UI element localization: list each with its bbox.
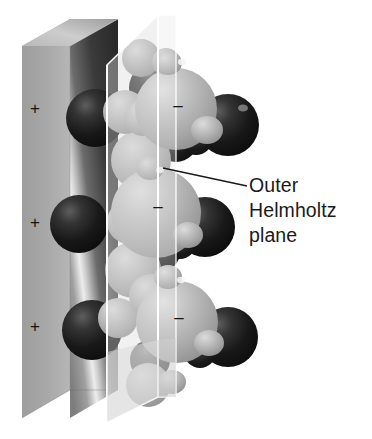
water-lobe bbox=[191, 116, 223, 144]
outer-helmholtz-plane bbox=[107, 15, 176, 422]
anion-sphere bbox=[50, 195, 108, 253]
annotation-line-plane: plane bbox=[249, 223, 297, 248]
water-lobe bbox=[194, 330, 224, 356]
ion-negative-symbol: – bbox=[171, 309, 187, 326]
ion-negative-symbol: – bbox=[170, 97, 186, 114]
electrode-charge-symbol: + bbox=[27, 100, 43, 117]
specular-highlight bbox=[177, 277, 185, 283]
ion-negative-symbol: – bbox=[150, 198, 166, 215]
electrode-charge-symbol: + bbox=[27, 214, 43, 231]
specular-highlight bbox=[238, 104, 248, 111]
annotation-line-helmholtz: Helmholtz bbox=[249, 198, 337, 223]
figure-canvas: + + + – – – Outer Helmholtz plane bbox=[0, 0, 372, 439]
specular-highlight bbox=[178, 59, 186, 65]
annotation-line-outer: Outer bbox=[249, 173, 298, 198]
water-lobe bbox=[173, 222, 203, 248]
ohp-lower-visible-front bbox=[158, 338, 176, 397]
electrode-charge-symbol: + bbox=[27, 318, 43, 335]
